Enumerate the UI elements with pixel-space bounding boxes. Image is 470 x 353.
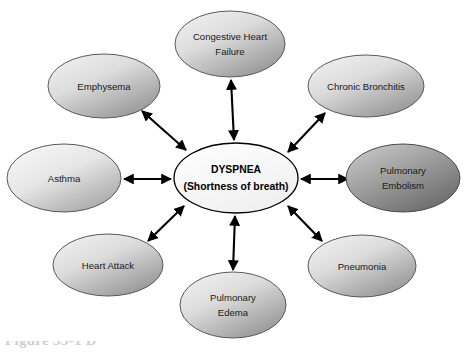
figure-root: Congestive Heart Failure Chronic Bronchi… [0,0,470,353]
node-label-line1: Pneumonia [338,261,387,272]
center-label-line1: DYSPNEA [211,164,262,175]
node-label-line1: Emphysema [77,81,131,92]
center-node-shape [174,143,298,213]
node-shape [175,11,285,77]
node-chronic-bronchitis: Chronic Bronchitis [308,55,424,117]
node-pneumonia: Pneumonia [308,235,416,297]
link-congestive-heart-failure [231,80,234,140]
link-pulmonary-edema [233,216,235,270]
center-label-line2: (Shortness of breath) [183,181,288,192]
node-shape [346,144,460,212]
node-congestive-heart-failure: Congestive Heart Failure [175,11,285,77]
node-label-line1: Congestive Heart [193,31,267,42]
link-heart-attack [148,206,184,241]
link-pneumonia [288,206,322,241]
node-pulmonary-edema: Pulmonary Edema [180,272,286,338]
node-label-line1: Pulmonary [380,165,426,176]
node-shape [180,272,286,338]
link-chronic-bronchitis [288,113,325,152]
link-emphysema [142,111,186,150]
node-heart-attack: Heart Attack [53,234,163,296]
node-label-line2: Embolism [382,180,424,191]
node-label-line1: Chronic Bronchitis [327,81,405,92]
node-asthma: Asthma [7,144,121,212]
node-label-line1: Heart Attack [82,260,134,271]
concept-map-diagram: Congestive Heart Failure Chronic Bronchi… [0,0,470,353]
node-label-line2: Edema [218,307,249,318]
node-label-line1: Asthma [48,173,81,184]
node-dyspnea-center: DYSPNEA (Shortness of breath) [174,143,298,213]
node-label-line2: Failure [215,46,244,57]
node-emphysema: Emphysema [48,54,160,118]
node-label-line1: Pulmonary [210,292,256,303]
node-pulmonary-embolism: Pulmonary Embolism [346,144,460,212]
